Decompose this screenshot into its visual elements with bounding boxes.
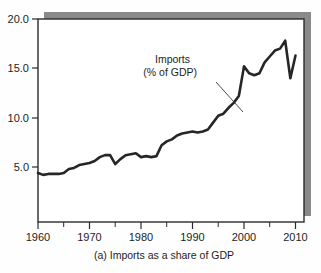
figure-caption: (a) Imports as a share of GDP xyxy=(94,249,234,261)
frame-shadow-top xyxy=(44,12,306,19)
x-tick-label-2000: 2000 xyxy=(232,231,256,243)
x-tick-label-1980: 1980 xyxy=(129,231,153,243)
y-tick-label-5: 5.0 xyxy=(14,161,29,173)
imports-share-of-gdp-chart: 20.0 15.0 10.0 5.0 1960 1970 1980 1990 2… xyxy=(0,0,321,273)
x-tick-label-1960: 1960 xyxy=(26,231,50,243)
y-tick-label-15: 15.0 xyxy=(8,62,29,74)
frame-shadow-right xyxy=(304,12,311,216)
x-tick-label-1990: 1990 xyxy=(180,231,204,243)
y-tick-label-20: 20.0 xyxy=(8,13,29,25)
figure-container: 20.0 15.0 10.0 5.0 1960 1970 1980 1990 2… xyxy=(0,0,321,273)
annotation-label-line1: Imports xyxy=(155,53,190,65)
plot-area xyxy=(38,19,304,222)
y-tick-label-10: 10.0 xyxy=(8,112,29,124)
annotation-label-line2: (% of GDP) xyxy=(143,66,197,78)
x-tick-label-1970: 1970 xyxy=(77,231,101,243)
x-tick-label-2010: 2010 xyxy=(283,231,307,243)
